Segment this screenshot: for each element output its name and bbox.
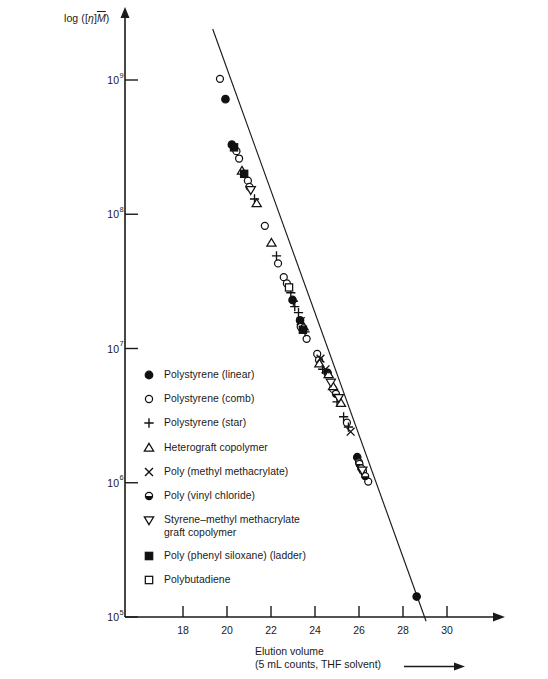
x-axis-direction-arrow: [404, 662, 466, 671]
marker-plus: [272, 251, 281, 260]
marker-open-circle: [303, 335, 310, 342]
y-tick-exponent: 5: [120, 608, 124, 617]
marker-open-triangle-up: [252, 199, 261, 207]
y-tick-label: 10: [107, 74, 119, 86]
legend-item-label: Heterograft copolymer: [164, 441, 268, 454]
legend-marker-open-triangle-up-icon: [142, 441, 164, 454]
y-tick-exponent: 7: [120, 339, 124, 348]
legend-item: Styrene–methyl methacrylate graft copoly…: [142, 513, 382, 539]
y-tick-label: 10: [107, 611, 119, 623]
marker-open-circle: [275, 260, 282, 267]
legend-item: Poly (phenyl siloxane) (ladder): [142, 549, 382, 562]
x-tick-label: 28: [397, 624, 409, 636]
marker-filled-square: [145, 552, 152, 559]
y-tick-label: 10: [107, 343, 119, 355]
marker-open-triangle-up: [144, 443, 153, 451]
marker-filled-square: [299, 326, 306, 333]
marker-open-triangle-down: [144, 517, 153, 525]
y-tick-exponent: 9: [120, 71, 124, 80]
legend-item: Poly (vinyl chloride): [142, 489, 382, 502]
legend-marker-filled-square-icon: [142, 549, 164, 562]
legend-item: Polystyrene (comb): [142, 392, 382, 405]
y-tick-exponent: 6: [120, 473, 124, 482]
y-tick-label: 10: [107, 477, 119, 489]
y-tick-label: 10: [107, 208, 119, 220]
legend-item: Polybutadiene: [142, 573, 382, 586]
legend-item-label: Poly (vinyl chloride): [164, 489, 255, 502]
x-axis-label-main: Elution volume: [255, 645, 381, 658]
marker-open-triangle-down: [246, 187, 255, 195]
y-tick-exponent: 8: [120, 205, 124, 214]
marker-open-circle: [261, 222, 268, 229]
x-tick-label: 18: [177, 624, 189, 636]
legend-marker-open-triangle-down-icon: [142, 513, 164, 526]
figure-canvas: 105106107108109 18202224262830 log ([η]M…: [0, 0, 548, 679]
legend-item: Poly (methyl methacrylate): [142, 465, 382, 478]
marker-open-circle: [145, 396, 152, 403]
marker-filled-square: [230, 144, 237, 151]
legend-marker-open-circle-icon: [142, 392, 164, 405]
x-tick-label: 26: [353, 624, 365, 636]
y-axis-ticks: 105106107108109: [107, 71, 138, 624]
legend-item-label: Poly (methyl methacrylate): [164, 465, 288, 478]
marker-open-square: [145, 577, 152, 584]
x-tick-label: 30: [441, 624, 453, 636]
x-tick-label: 20: [221, 624, 233, 636]
legend-marker-half-circle-icon: [142, 489, 164, 502]
y-axis-label: log ([η]M): [64, 12, 109, 24]
marker-open-triangle-up: [267, 238, 276, 246]
legend-item-label: Polystyrene (linear): [164, 368, 255, 381]
marker-open-circle: [216, 75, 223, 82]
legend-item-label: Styrene–methyl methacrylate graft copoly…: [164, 513, 300, 539]
marker-filled-square: [241, 170, 248, 177]
legend-item: Heterograft copolymer: [142, 441, 382, 454]
legend-item-label: Polystyrene (star): [164, 416, 246, 429]
y-axis-label-pre: log ([: [64, 12, 88, 24]
x-axis-ticks: 18202224262830: [177, 606, 453, 636]
y-axis-label-mbar: M: [97, 12, 106, 24]
legend-item: Polystyrene (star): [142, 416, 382, 429]
y-axis-label-post: ): [106, 12, 110, 24]
x-tick-label: 22: [265, 624, 277, 636]
marker-plus: [144, 419, 153, 428]
marker-filled-circle: [145, 371, 153, 379]
legend-item: Polystyrene (linear): [142, 368, 382, 381]
legend-item-label: Polybutadiene: [164, 573, 231, 586]
series-group: [285, 284, 292, 291]
legend-marker-open-square-icon: [142, 573, 164, 586]
chart-legend: Polystyrene (linear)Polystyrene (comb)Po…: [142, 368, 382, 598]
marker-open-circle: [236, 155, 243, 162]
marker-filled-circle: [413, 593, 420, 600]
marker-open-square: [285, 284, 292, 291]
x-axis-arrowhead: [493, 613, 505, 622]
marker-filled-circle: [222, 95, 229, 102]
legend-item-label: Polystyrene (comb): [164, 392, 254, 405]
x-axis-label: Elution volume (5 mL counts, THF solvent…: [255, 645, 381, 670]
marker-half-circle: [145, 492, 152, 499]
legend-marker-cross-icon: [142, 465, 164, 478]
marker-cross: [145, 468, 153, 476]
legend-marker-filled-circle-icon: [142, 368, 164, 381]
legend-marker-plus-icon: [142, 416, 164, 429]
y-axis-arrowhead: [121, 7, 130, 18]
legend-item-label: Poly (phenyl siloxane) (ladder): [164, 549, 306, 562]
x-axis-label-sub: (5 mL counts, THF solvent): [255, 658, 381, 671]
x-tick-label: 24: [309, 624, 321, 636]
